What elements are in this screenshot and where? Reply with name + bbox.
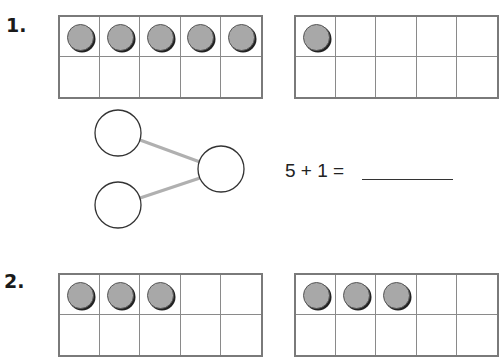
ten-frame-cell [376, 315, 416, 355]
counter-icon [107, 282, 134, 309]
ten-frame-cell [140, 315, 180, 355]
ten-frame-cell [140, 275, 180, 315]
ten-frame-cell [221, 315, 261, 355]
bond-line-bottom [140, 178, 200, 198]
ten-frame-2b [294, 273, 499, 357]
counter-icon [343, 282, 370, 309]
ten-frame-cell [457, 57, 497, 97]
ten-frame-cell [417, 275, 457, 315]
ten-frame-cell [60, 275, 100, 315]
ten-frame-cell [181, 315, 221, 355]
ten-frame-cell [100, 275, 140, 315]
ten-frame-cell [417, 315, 457, 355]
ten-frame-cell [457, 315, 497, 355]
ten-frame-cell [296, 315, 336, 355]
bond-part-circle-bottom[interactable] [95, 182, 141, 228]
ten-frame-cell [221, 275, 261, 315]
ten-frame-cell [457, 275, 497, 315]
equation: 5 + 1 = [285, 160, 344, 182]
ten-frame-cell [60, 315, 100, 355]
ten-frame-2a [58, 273, 263, 357]
ten-frame-cell [457, 17, 497, 57]
answer-blank[interactable] [362, 179, 453, 180]
counter-icon [383, 282, 410, 309]
bond-part-circle-top[interactable] [95, 110, 141, 156]
ten-frame-cell [181, 275, 221, 315]
bond-line-top [140, 140, 200, 162]
ten-frame-cell [336, 315, 376, 355]
counter-icon [147, 282, 174, 309]
ten-frame-cell [376, 275, 416, 315]
ten-frame-cell [100, 315, 140, 355]
ten-frame-cell [296, 275, 336, 315]
problem-number-2: 2. [4, 270, 24, 292]
counter-icon [303, 282, 330, 309]
counter-icon [67, 282, 94, 309]
ten-frame-cell [336, 275, 376, 315]
bond-whole-circle[interactable] [198, 146, 244, 192]
